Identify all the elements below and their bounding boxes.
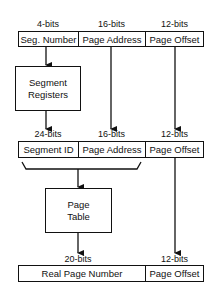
segment-registers-line1: Segment: [29, 77, 67, 89]
page-address-field: Page Address: [78, 31, 146, 47]
segment-id-bits-label: 24-bits: [18, 129, 78, 139]
segment-id-field: Segment ID: [18, 141, 79, 158]
seg-number-field: Seg. Number: [18, 31, 79, 47]
page-address-2-bits-label: 16-bits: [78, 129, 145, 139]
page-offset-2-bits-label: 12-bits: [145, 129, 204, 139]
page-table-line1: Page: [67, 199, 89, 211]
page-address-2-field: Page Address: [78, 141, 146, 158]
segment-registers-line2: Registers: [28, 89, 68, 101]
seg-number-bits-label: 4-bits: [18, 19, 78, 29]
page-address-bits-label: 16-bits: [78, 19, 145, 29]
page-offset-3-bits-label: 12-bits: [145, 254, 204, 264]
page-offset-3-field: Page Offset: [145, 265, 204, 282]
page-offset-2-field: Page Offset: [145, 141, 204, 158]
page-offset-field: Page Offset: [145, 31, 204, 47]
real-page-number-field: Real Page Number: [18, 265, 146, 282]
segment-registers-box: Segment Registers: [15, 66, 81, 111]
real-page-number-bits-label: 20-bits: [48, 254, 108, 264]
page-offset-bits-label: 12-bits: [145, 19, 204, 29]
page-table-line2: Table: [67, 211, 90, 223]
page-table-box: Page Table: [45, 188, 112, 233]
